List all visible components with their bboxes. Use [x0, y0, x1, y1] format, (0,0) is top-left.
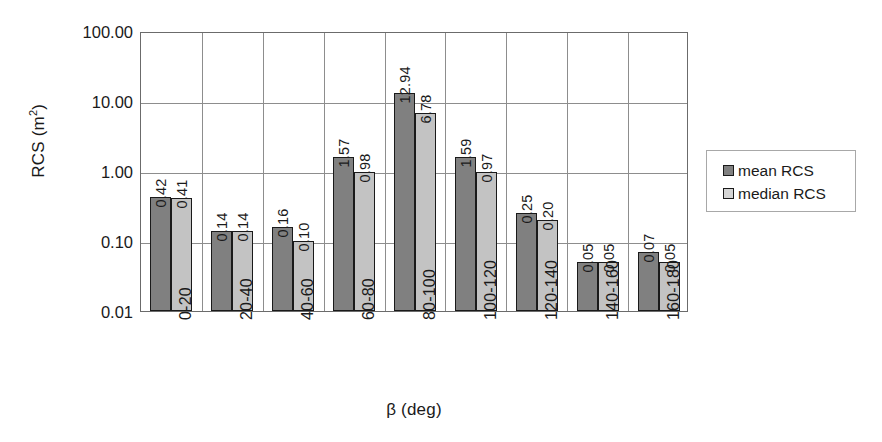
x-axis-category-label: 60-80: [361, 278, 377, 320]
y-axis-title: RCS (m2): [27, 61, 49, 221]
x-axis-category-label: 40-60: [300, 278, 316, 320]
y-axis-tick-label: 100.00: [55, 24, 133, 41]
x-axis-category-labels: 0-2020-4040-6060-8080-100100-120120-1401…: [140, 0, 688, 442]
legend-label: mean RCS: [738, 162, 814, 180]
x-axis-category-label: 100-120: [483, 260, 499, 320]
y-axis-title-main: RCS (m: [29, 116, 48, 178]
x-axis-category-label: 0-20: [178, 287, 194, 320]
y-axis-tick-label: 1.00: [55, 164, 133, 181]
y-axis-tick-label: 10.00: [55, 94, 133, 111]
y-axis-title-exponent: 2: [27, 110, 39, 116]
y-axis-tick-labels: 100.0010.001.000.100.01: [55, 0, 133, 442]
chart-legend: mean RCSmedian RCS: [706, 150, 856, 212]
legend-swatch-mean: [723, 165, 734, 176]
rcs-bar-chart: RCS (m2) 100.0010.001.000.100.01 0.420.4…: [0, 0, 882, 442]
legend-item: median RCS: [723, 182, 855, 205]
x-axis-category-label: 160-180: [666, 260, 682, 320]
x-axis-category-label: 80-100: [422, 269, 438, 320]
legend-swatch-median: [723, 188, 734, 199]
y-axis-tick-label: 0.10: [55, 234, 133, 251]
x-axis-title: β (deg): [140, 400, 688, 420]
x-axis-category-label: 120-140: [544, 260, 560, 320]
legend-item: mean RCS: [723, 159, 855, 182]
x-axis-category-label: 140-160: [605, 260, 621, 320]
y-axis-title-tail: ): [29, 104, 48, 110]
legend-label: median RCS: [738, 185, 826, 203]
x-axis-category-label: 20-40: [239, 278, 255, 320]
y-axis-tick-label: 0.01: [55, 304, 133, 321]
